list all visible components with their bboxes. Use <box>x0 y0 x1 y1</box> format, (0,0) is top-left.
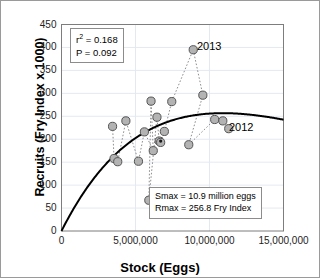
data-point-marker <box>153 113 161 121</box>
r-squared-value: = 0.168 <box>83 34 118 45</box>
data-point-marker <box>160 127 168 135</box>
r-squared-line: r2 = 0.168 <box>76 32 118 47</box>
data-point-marker <box>114 158 122 166</box>
data-point-marker <box>185 141 193 149</box>
data-point-marker <box>147 97 155 105</box>
data-point-marker-highlighted <box>159 139 162 142</box>
data-point-marker <box>168 97 176 105</box>
data-point-marker <box>199 91 207 99</box>
parameters-box: Smax = 10.9 million eggs Rmax = 256.8 Fr… <box>149 187 262 219</box>
data-point-marker <box>140 128 148 136</box>
point-label-2013: 2013 <box>197 40 221 52</box>
p-value-line: P = 0.092 <box>76 47 118 60</box>
statistics-box: r2 = 0.168 P = 0.092 <box>70 28 124 63</box>
time-series-connector <box>113 50 229 201</box>
smax-line: Smax = 10.9 million eggs <box>155 191 256 203</box>
scatter-plot <box>1 1 320 278</box>
series-connector-path <box>113 50 229 201</box>
data-point-markers <box>108 46 232 205</box>
rmax-line: Rmax = 256.8 Fry Index <box>155 203 256 215</box>
data-point-marker <box>211 115 219 123</box>
data-point-marker <box>219 117 227 125</box>
data-point-marker <box>108 122 116 130</box>
data-point-marker <box>149 147 157 155</box>
data-point-marker <box>134 157 142 165</box>
data-point-marker <box>122 117 130 125</box>
figure-container: Recruits (Fry Index x 1000) Stock (Eggs)… <box>0 0 320 278</box>
point-label-2012: 2012 <box>229 121 253 133</box>
